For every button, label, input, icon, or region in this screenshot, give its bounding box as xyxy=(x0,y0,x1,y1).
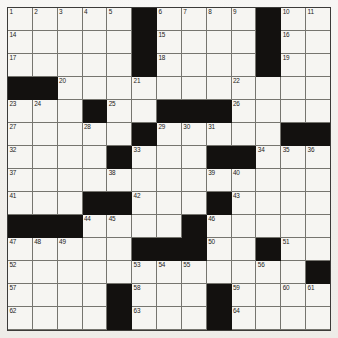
open-cell[interactable] xyxy=(157,284,182,307)
open-cell[interactable] xyxy=(58,284,83,307)
open-cell[interactable] xyxy=(306,31,331,54)
open-cell[interactable]: 1 xyxy=(8,8,33,31)
open-cell[interactable]: 47 xyxy=(8,238,33,261)
open-cell[interactable] xyxy=(306,238,331,261)
open-cell[interactable] xyxy=(256,100,281,123)
open-cell[interactable] xyxy=(306,330,331,331)
open-cell[interactable] xyxy=(58,123,83,146)
open-cell[interactable]: 46 xyxy=(207,215,232,238)
open-cell[interactable] xyxy=(58,169,83,192)
open-cell[interactable]: 55 xyxy=(182,261,207,284)
open-cell[interactable]: 2 xyxy=(33,8,58,31)
open-cell[interactable] xyxy=(83,284,108,307)
open-cell[interactable]: 30 xyxy=(182,123,207,146)
open-cell[interactable] xyxy=(83,330,108,331)
open-cell[interactable] xyxy=(207,54,232,77)
open-cell[interactable] xyxy=(58,100,83,123)
open-cell[interactable] xyxy=(232,261,257,284)
open-cell[interactable] xyxy=(58,261,83,284)
open-cell[interactable]: 67 xyxy=(232,330,257,331)
open-cell[interactable]: 16 xyxy=(281,31,306,54)
open-cell[interactable]: 29 xyxy=(157,123,182,146)
open-cell[interactable]: 40 xyxy=(232,169,257,192)
open-cell[interactable]: 52 xyxy=(8,261,33,284)
open-cell[interactable]: 34 xyxy=(256,146,281,169)
open-cell[interactable]: 15 xyxy=(157,31,182,54)
crossword-grid[interactable]: 1234567891011141516171819202122232425262… xyxy=(7,7,331,331)
open-cell[interactable]: 50 xyxy=(207,238,232,261)
open-cell[interactable] xyxy=(182,169,207,192)
open-cell[interactable]: 35 xyxy=(281,146,306,169)
open-cell[interactable]: 28 xyxy=(83,123,108,146)
open-cell[interactable]: 63 xyxy=(132,307,157,330)
open-cell[interactable] xyxy=(256,215,281,238)
open-cell[interactable] xyxy=(281,261,306,284)
open-cell[interactable] xyxy=(58,307,83,330)
open-cell[interactable] xyxy=(281,192,306,215)
open-cell[interactable] xyxy=(182,31,207,54)
open-cell[interactable] xyxy=(157,146,182,169)
open-cell[interactable] xyxy=(256,77,281,100)
open-cell[interactable]: 5 xyxy=(107,8,132,31)
open-cell[interactable] xyxy=(58,192,83,215)
open-cell[interactable]: 59 xyxy=(232,284,257,307)
open-cell[interactable] xyxy=(83,238,108,261)
open-cell[interactable]: 36 xyxy=(306,146,331,169)
open-cell[interactable] xyxy=(306,169,331,192)
open-cell[interactable] xyxy=(33,284,58,307)
open-cell[interactable]: 64 xyxy=(232,307,257,330)
open-cell[interactable]: 57 xyxy=(8,284,33,307)
open-cell[interactable] xyxy=(33,169,58,192)
open-cell[interactable]: 19 xyxy=(281,54,306,77)
open-cell[interactable]: 62 xyxy=(8,307,33,330)
open-cell[interactable] xyxy=(83,307,108,330)
open-cell[interactable]: 8 xyxy=(207,8,232,31)
open-cell[interactable]: 61 xyxy=(306,284,331,307)
open-cell[interactable] xyxy=(33,54,58,77)
open-cell[interactable]: 38 xyxy=(107,169,132,192)
open-cell[interactable] xyxy=(182,284,207,307)
open-cell[interactable] xyxy=(107,261,132,284)
open-cell[interactable] xyxy=(58,146,83,169)
open-cell[interactable]: 65 xyxy=(8,330,33,331)
open-cell[interactable]: 3 xyxy=(58,8,83,31)
open-cell[interactable]: 48 xyxy=(33,238,58,261)
open-cell[interactable]: 26 xyxy=(232,100,257,123)
open-cell[interactable]: 51 xyxy=(281,238,306,261)
open-cell[interactable] xyxy=(83,146,108,169)
open-cell[interactable] xyxy=(157,330,182,331)
open-cell[interactable] xyxy=(107,238,132,261)
open-cell[interactable] xyxy=(58,31,83,54)
open-cell[interactable] xyxy=(33,31,58,54)
open-cell[interactable] xyxy=(306,307,331,330)
open-cell[interactable] xyxy=(132,169,157,192)
open-cell[interactable] xyxy=(207,31,232,54)
open-cell[interactable]: 37 xyxy=(8,169,33,192)
open-cell[interactable] xyxy=(306,54,331,77)
open-cell[interactable] xyxy=(232,123,257,146)
open-cell[interactable] xyxy=(33,330,58,331)
open-cell[interactable]: 14 xyxy=(8,31,33,54)
open-cell[interactable]: 9 xyxy=(232,8,257,31)
open-cell[interactable]: 66 xyxy=(132,330,157,331)
open-cell[interactable] xyxy=(182,77,207,100)
open-cell[interactable]: 10 xyxy=(281,8,306,31)
open-cell[interactable] xyxy=(256,307,281,330)
open-cell[interactable] xyxy=(306,100,331,123)
open-cell[interactable] xyxy=(157,192,182,215)
open-cell[interactable]: 20 xyxy=(58,77,83,100)
open-cell[interactable] xyxy=(256,123,281,146)
open-cell[interactable] xyxy=(83,169,108,192)
open-cell[interactable] xyxy=(83,77,108,100)
open-cell[interactable]: 4 xyxy=(83,8,108,31)
open-cell[interactable] xyxy=(281,100,306,123)
open-cell[interactable]: 24 xyxy=(33,100,58,123)
open-cell[interactable] xyxy=(107,54,132,77)
open-cell[interactable] xyxy=(281,330,306,331)
open-cell[interactable]: 39 xyxy=(207,169,232,192)
open-cell[interactable] xyxy=(182,307,207,330)
open-cell[interactable] xyxy=(281,307,306,330)
open-cell[interactable]: 60 xyxy=(281,284,306,307)
open-cell[interactable]: 7 xyxy=(182,8,207,31)
open-cell[interactable] xyxy=(281,77,306,100)
